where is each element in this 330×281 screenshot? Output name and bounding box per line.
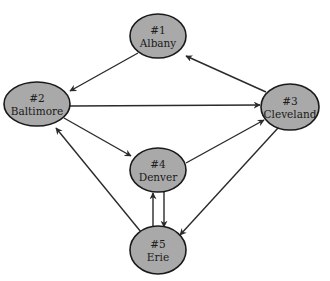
network-diagram: #1 Albany #2 Baltimore #3 Cleveland #4 D… xyxy=(0,0,330,281)
node-denver-label: Denver xyxy=(139,171,179,183)
node-albany: #1 Albany xyxy=(130,14,186,58)
node-cleveland-shape xyxy=(261,84,319,130)
node-baltimore-shape xyxy=(4,82,70,126)
node-erie-number: #5 xyxy=(150,238,165,250)
node-albany-number: #1 xyxy=(150,24,165,36)
node-cleveland-label: Cleveland xyxy=(264,108,317,120)
node-albany-shape xyxy=(130,14,186,58)
node-denver-number: #4 xyxy=(150,158,166,170)
edge-cleveland-to-erie xyxy=(180,128,278,235)
nodes-layer: #1 Albany #2 Baltimore #3 Cleveland #4 D… xyxy=(4,14,319,274)
edge-albany-to-baltimore xyxy=(70,53,138,91)
node-cleveland: #3 Cleveland xyxy=(261,84,319,130)
node-cleveland-number: #3 xyxy=(282,95,297,107)
node-baltimore-number: #2 xyxy=(29,92,44,104)
node-erie-label: Erie xyxy=(147,251,169,263)
edge-cleveland-to-albany xyxy=(186,56,266,92)
node-denver-shape xyxy=(130,148,186,192)
node-baltimore: #2 Baltimore xyxy=(4,82,70,126)
node-erie: #5 Erie xyxy=(130,226,186,274)
node-baltimore-label: Baltimore xyxy=(11,105,63,117)
node-denver: #4 Denver xyxy=(130,148,186,192)
node-albany-label: Albany xyxy=(139,37,177,49)
edges-layer xyxy=(56,53,278,235)
edge-erie-to-baltimore xyxy=(56,128,141,232)
node-erie-shape xyxy=(130,226,186,274)
edge-baltimore-to-cleveland xyxy=(70,105,260,106)
